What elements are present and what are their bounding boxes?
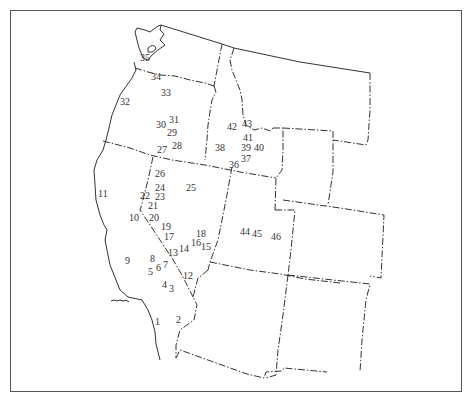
site-label-15: 15 <box>201 242 211 252</box>
channel-islands-icon <box>111 300 129 302</box>
site-label-9: 9 <box>125 256 130 266</box>
site-label-32: 32 <box>120 97 130 107</box>
canada-border <box>161 25 370 73</box>
nv-ut-border <box>208 167 232 270</box>
ut-co-border <box>275 210 295 275</box>
site-label-5: 5 <box>148 267 153 277</box>
site-label-43: 43 <box>242 119 252 129</box>
site-label-33: 33 <box>161 88 171 98</box>
site-label-37: 37 <box>241 154 251 164</box>
site-label-19: 19 <box>161 222 171 232</box>
site-label-13: 13 <box>168 248 178 258</box>
site-label-45: 45 <box>252 229 262 239</box>
site-label-31: 31 <box>169 115 179 125</box>
site-label-17: 17 <box>164 232 174 242</box>
mexico-border <box>176 350 327 378</box>
site-label-6: 6 <box>156 263 161 273</box>
site-label-39: 39 <box>241 143 251 153</box>
site-label-3: 3 <box>169 284 174 294</box>
site-label-14: 14 <box>179 244 189 254</box>
site-label-16: 16 <box>191 238 201 248</box>
site-label-10: 10 <box>129 213 139 223</box>
site-label-46: 46 <box>271 232 281 242</box>
site-label-12: 12 <box>183 271 193 281</box>
site-label-18: 18 <box>196 229 206 239</box>
ut-az-border <box>210 262 340 283</box>
wyoming-border <box>273 128 333 210</box>
co-nm-border <box>288 275 370 372</box>
site-label-44: 44 <box>240 227 250 237</box>
site-label-4: 4 <box>162 280 167 290</box>
site-label-36: 36 <box>229 160 239 170</box>
site-label-38: 38 <box>215 143 225 153</box>
site-label-41: 41 <box>243 133 253 143</box>
montana-border <box>333 73 370 145</box>
site-label-21: 21 <box>148 201 158 211</box>
site-label-20: 20 <box>149 213 159 223</box>
site-label-26: 26 <box>155 169 165 179</box>
wa-id-border <box>214 44 222 86</box>
site-label-23: 23 <box>155 192 165 202</box>
wa-or-border <box>135 68 214 86</box>
site-label-25: 25 <box>186 183 196 193</box>
site-label-7: 7 <box>163 260 168 270</box>
site-label-11: 11 <box>98 189 108 199</box>
site-label-28: 28 <box>172 141 182 151</box>
site-label-30: 30 <box>156 120 166 130</box>
site-label-27: 27 <box>157 145 167 155</box>
site-label-42: 42 <box>227 122 237 132</box>
site-label-8: 8 <box>150 254 155 264</box>
site-label-35: 35 <box>140 53 150 63</box>
wy-co-border <box>283 200 384 278</box>
az-nm-border <box>266 275 288 378</box>
site-label-34: 34 <box>151 72 161 82</box>
site-label-40: 40 <box>254 143 264 153</box>
site-label-1: 1 <box>155 317 160 327</box>
site-label-24: 24 <box>155 183 165 193</box>
site-label-2: 2 <box>176 315 181 325</box>
western-us-map <box>0 0 472 403</box>
site-label-22: 22 <box>140 191 150 201</box>
site-label-29: 29 <box>167 128 177 138</box>
